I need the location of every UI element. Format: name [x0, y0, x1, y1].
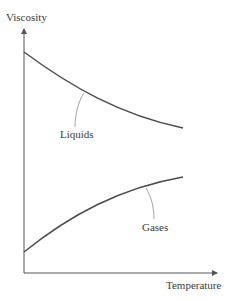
liquids-curve — [24, 52, 183, 128]
chart-canvas — [0, 0, 226, 301]
gases-leader-line — [146, 188, 154, 219]
x-axis-label: Temperature — [166, 280, 221, 291]
viscosity-temperature-chart: Viscosity Temperature Liquids Gases — [0, 0, 226, 301]
gases-curve — [24, 177, 183, 252]
gases-label: Gases — [142, 222, 168, 233]
liquids-label: Liquids — [60, 129, 94, 140]
liquids-leader-line — [75, 93, 84, 127]
y-axis-label: Viscosity — [6, 12, 47, 23]
